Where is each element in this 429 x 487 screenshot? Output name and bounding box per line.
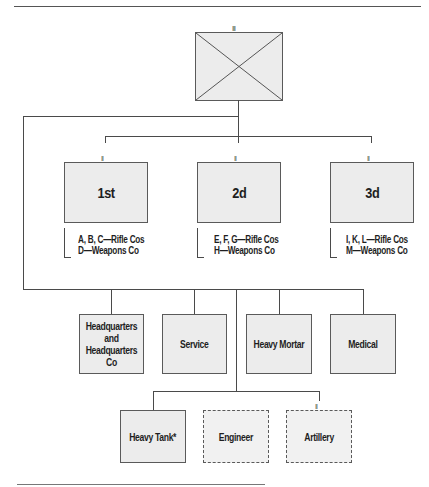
connector <box>105 136 371 137</box>
connector <box>371 136 372 143</box>
heavy-mortar-company-box: Heavy Mortar <box>246 314 312 374</box>
unit-label: Headquarters and Headquarters Co <box>86 320 138 368</box>
battalion-2d-box: 2d <box>197 162 281 223</box>
company-bracket <box>64 228 71 258</box>
unit-label: Artillery <box>304 431 334 443</box>
unit-label: Heavy Tank* <box>130 431 177 443</box>
connector <box>236 289 237 391</box>
regiment-box <box>195 32 283 101</box>
engineer-company-box: Engineer <box>203 410 269 463</box>
service-company-box: Service <box>162 314 227 374</box>
battalion-3-echelon-mark: II <box>367 155 369 162</box>
company-list-line: D—Weapons Co <box>78 245 139 257</box>
connector <box>23 116 24 290</box>
connector <box>111 289 112 314</box>
battalion-1-echelon-mark: II <box>101 155 103 162</box>
battalion-2-echelon-mark: II <box>234 155 236 162</box>
battalion-label: 2d <box>232 184 246 201</box>
connector <box>279 289 280 314</box>
battalion-label: 1st <box>97 184 114 201</box>
regiment-echelon-mark: III <box>232 25 235 32</box>
heavy-tank-company-box: Heavy Tank* <box>120 410 186 463</box>
infantry-cross-icon <box>196 33 282 100</box>
company-list-line: M—Weapons Co <box>346 245 408 257</box>
top-rule <box>14 6 421 7</box>
connector <box>105 136 106 143</box>
unit-label: Service <box>180 338 208 350</box>
company-bracket <box>330 228 337 258</box>
hq-company-box: Headquarters and Headquarters Co <box>79 314 144 374</box>
connector <box>363 289 364 314</box>
unit-label: Heavy Mortar <box>254 338 305 350</box>
battalion-3d-box: 3d <box>330 162 414 223</box>
artillery-echelon-mark: II <box>315 403 317 410</box>
footnote-rule <box>17 484 265 485</box>
unit-label: Engineer <box>219 431 253 443</box>
connector <box>194 289 195 314</box>
company-list-line: H—Weapons Co <box>214 245 275 257</box>
company-bracket <box>197 228 204 258</box>
battalion-label: 3d <box>365 184 379 201</box>
medical-company-box: Medical <box>330 314 396 374</box>
unit-label: Medical <box>348 338 377 350</box>
connector <box>319 391 320 401</box>
artillery-battalion-box: Artillery <box>286 410 352 463</box>
connector <box>153 391 154 410</box>
connector <box>23 116 238 117</box>
connector <box>153 391 319 392</box>
battalion-1st-box: 1st <box>64 162 148 223</box>
